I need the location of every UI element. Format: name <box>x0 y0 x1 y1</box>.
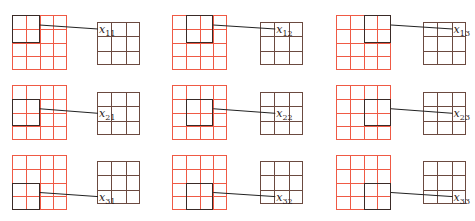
window-frame <box>364 99 392 127</box>
output-cell-label: x33 <box>454 192 470 206</box>
grid-line <box>53 156 54 209</box>
grid-line <box>213 156 214 209</box>
output-cell-label: x31 <box>99 192 115 206</box>
grid-line <box>13 56 66 57</box>
grid-line <box>213 16 214 69</box>
window-frame <box>12 183 40 211</box>
grid-line <box>437 162 438 203</box>
label-subscript: 31 <box>105 197 115 206</box>
grid-line <box>98 175 139 176</box>
grid-line <box>40 16 41 69</box>
window-frame <box>12 99 40 127</box>
output-cell-label: x23 <box>454 108 470 122</box>
output-cell-label: x12 <box>276 24 292 38</box>
grid-line <box>13 126 66 127</box>
grid-line <box>213 86 214 139</box>
window-frame <box>364 183 392 211</box>
grid-line <box>452 93 453 134</box>
grid-line <box>274 93 275 134</box>
grid-line <box>173 56 226 57</box>
output-cell-label: x22 <box>276 108 292 122</box>
window-frame <box>186 15 214 43</box>
window-frame <box>364 15 392 43</box>
label-subscript: 23 <box>460 113 470 122</box>
label-subscript: 11 <box>105 29 115 38</box>
grid-line <box>126 23 127 64</box>
grid-line <box>437 23 438 64</box>
grid-line <box>261 51 302 52</box>
grid-line <box>98 51 139 52</box>
convolution-diagram: x11x12x13x21x22x23x31x32x33 <box>0 0 475 221</box>
grid-line <box>424 175 465 176</box>
grid-line <box>40 156 41 209</box>
window-frame <box>12 15 40 43</box>
grid-line <box>126 162 127 203</box>
label-subscript: 12 <box>283 29 293 38</box>
grid-line <box>337 126 390 127</box>
grid-line <box>437 93 438 134</box>
grid-line <box>261 175 302 176</box>
grid-line <box>173 126 226 127</box>
window-frame <box>186 99 214 127</box>
grid-line <box>126 93 127 134</box>
grid-line <box>424 51 465 52</box>
label-subscript: 33 <box>460 197 470 206</box>
output-cell-label: x13 <box>454 24 470 38</box>
grid-line <box>452 162 453 203</box>
grid-line <box>53 86 54 139</box>
output-cell-label: x32 <box>276 192 292 206</box>
grid-line <box>337 56 390 57</box>
grid-line <box>274 23 275 64</box>
grid-line <box>40 86 41 139</box>
label-subscript: 13 <box>460 29 470 38</box>
grid-line <box>53 16 54 69</box>
label-subscript: 32 <box>283 197 293 206</box>
window-frame <box>186 183 214 211</box>
output-cell-label: x11 <box>99 24 115 38</box>
label-subscript: 22 <box>283 113 293 122</box>
label-subscript: 21 <box>105 113 115 122</box>
output-cell-label: x21 <box>99 108 115 122</box>
grid-line <box>452 23 453 64</box>
grid-line <box>274 162 275 203</box>
